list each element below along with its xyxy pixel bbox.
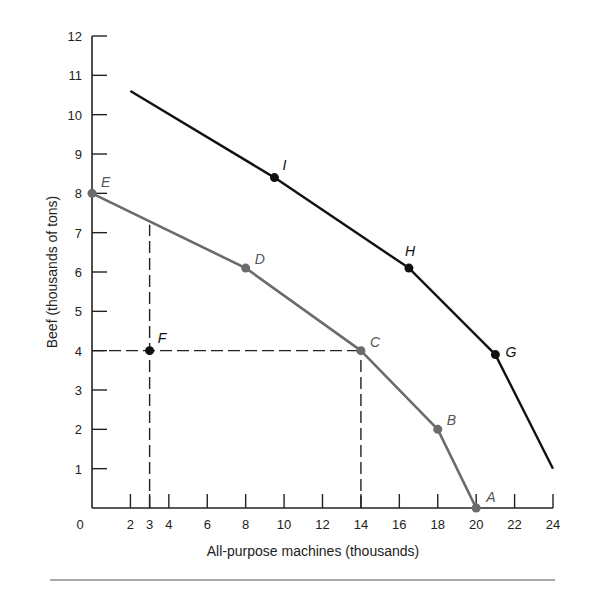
y-tick-label: 8 [75,186,82,201]
point-b [433,425,442,434]
x-tick-label: 24 [546,517,560,532]
y-tick-label: 5 [75,304,82,319]
y-tick-label: 2 [75,422,82,437]
point-f [145,346,154,355]
x-tick-label: 12 [315,517,329,532]
x-tick-label: 3 [146,517,153,532]
x-tick-label: 2 [127,517,134,532]
point-label-b: B [447,412,456,428]
point-label-a: A [485,489,495,505]
y-tick-label: 4 [75,344,82,359]
point-c [356,346,365,355]
y-tick-label: 6 [75,265,82,280]
y-tick-label: 12 [68,29,82,44]
y-tick-label: 7 [75,226,82,241]
x-tick-label: 14 [354,517,368,532]
point-label-c: C [370,334,381,350]
x-tick-label: 10 [277,517,291,532]
x-tick-label: 18 [431,517,445,532]
point-label-d: D [255,251,265,267]
y-tick-label: 3 [75,383,82,398]
point-label-f: F [158,330,168,346]
reference-lines [92,225,361,508]
point-label-g: G [505,344,516,360]
y-tick-label: 11 [69,68,83,83]
x-tick-label: 16 [392,517,406,532]
point-e [88,189,97,198]
x-tick-label: 4 [165,517,172,532]
point-a [472,504,481,513]
x-tick-label: 22 [507,517,521,532]
x-tick-label: 0 [76,517,83,532]
x-tick-label: 20 [469,517,483,532]
point-h [404,264,413,273]
y-tick-label: 9 [75,147,82,162]
y-tick-label: 1 [75,462,82,477]
point-label-e: E [101,174,111,190]
point-i [270,173,279,182]
x-tick-label: 6 [204,517,211,532]
point-g [491,350,500,359]
series-line [130,91,553,469]
y-axis: 123456789101112 [68,29,107,508]
point-d [241,264,250,273]
point-label-i: I [282,157,286,173]
x-tick-label: 8 [242,517,249,532]
series-curves [92,91,553,508]
y-axis-title: Beef (thousands of tons) [44,196,60,349]
y-tick-label: 10 [68,108,82,123]
x-axis-title: All-purpose machines (thousands) [207,543,419,559]
production-possibilities-chart: 123456789101112 0234681012141618202224 E… [0,0,589,592]
point-label-h: H [405,243,416,259]
